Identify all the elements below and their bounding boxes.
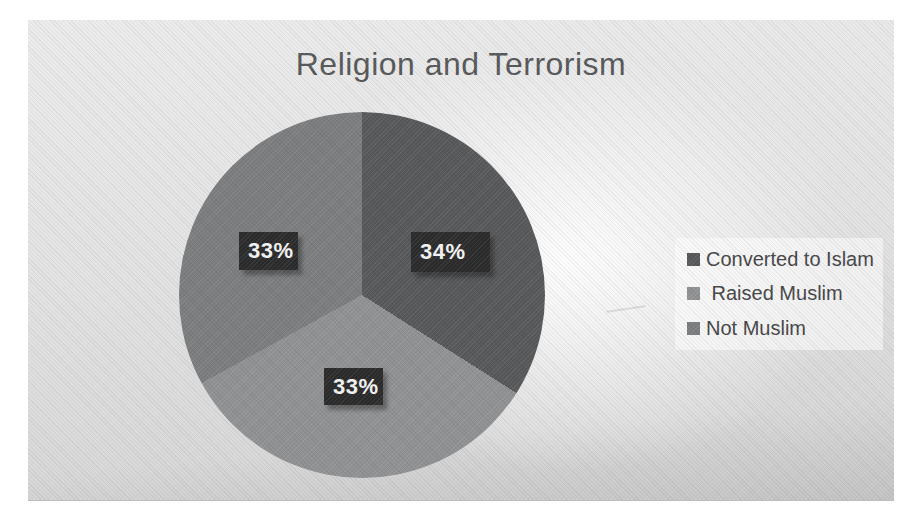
slice-label-converted-to-islam: 34%: [411, 232, 490, 272]
slice-label-raised-muslim: 33%: [324, 368, 383, 405]
legend-item-raised-muslim: Raised Muslim: [687, 282, 883, 305]
legend-item-not-muslim: Not Muslim: [687, 317, 883, 340]
legend-swatch-converted-to-islam-icon: [687, 253, 700, 266]
legend-label-converted-to-islam: Converted to Islam: [706, 248, 874, 271]
legend-item-converted-to-islam: Converted to Islam: [687, 248, 883, 271]
slice-label-not-muslim: 33%: [239, 232, 298, 270]
chart-title: Religion and Terrorism: [28, 46, 894, 83]
pie-chart: [179, 112, 545, 478]
scan-scratch-artifact: [606, 305, 646, 313]
legend-label-raised-muslim: Raised Muslim: [706, 282, 843, 305]
legend: Converted to Islam Raised Muslim Not Mus…: [675, 238, 883, 350]
legend-swatch-not-muslim-icon: [687, 322, 700, 335]
scanned-chart-area: Religion and Terrorism 34% 33% 33% Conve…: [28, 20, 894, 501]
legend-swatch-raised-muslim-icon: [687, 287, 700, 300]
legend-label-not-muslim: Not Muslim: [706, 317, 806, 340]
